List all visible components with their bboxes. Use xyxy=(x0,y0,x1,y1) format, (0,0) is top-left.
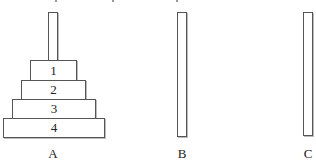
peg-b xyxy=(177,12,187,137)
disc-4-label: 4 xyxy=(51,120,58,136)
peg-c-label: C xyxy=(298,146,316,161)
cropped-text-fragment xyxy=(55,0,57,2)
disc-3-label: 3 xyxy=(51,101,58,117)
cropped-text-fragment xyxy=(112,0,114,2)
disc-2: 2 xyxy=(21,80,86,100)
peg-a-label: A xyxy=(43,146,63,161)
disc-1: 1 xyxy=(30,60,77,81)
disc-4: 4 xyxy=(3,118,105,138)
peg-a xyxy=(48,12,58,62)
disc-1-label: 1 xyxy=(50,63,57,79)
cropped-text-fragment xyxy=(176,0,178,2)
disc-3: 3 xyxy=(12,99,96,119)
disc-2-label: 2 xyxy=(50,82,57,98)
peg-b-label: B xyxy=(172,146,192,161)
peg-c xyxy=(303,12,313,136)
